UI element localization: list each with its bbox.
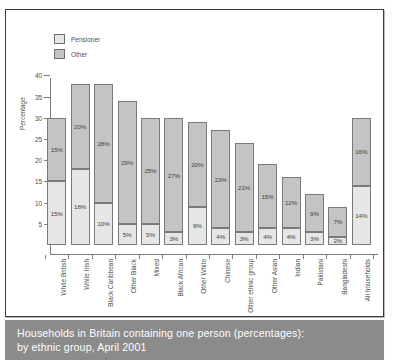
bar-segment-pensioner[interactable]: 2%	[328, 237, 347, 245]
bar-value-label: 9%	[310, 210, 319, 217]
y-axis-title: Percentage	[19, 40, 26, 130]
bar-value-label: 5%	[123, 231, 132, 238]
bar-segment-other[interactable]: 28%	[94, 84, 113, 203]
x-axis-tick-12	[326, 255, 327, 259]
x-axis-category-label: White Irish	[83, 259, 90, 290]
y-axis-tick-label-20: 20	[28, 157, 42, 164]
bar-segment-other[interactable]: 27%	[164, 118, 183, 233]
x-axis-tick-11	[303, 255, 304, 259]
bar-segment-other[interactable]: 29%	[118, 101, 137, 224]
x-axis-category-label: Other Asian	[271, 259, 278, 293]
bar-value-label: 21%	[238, 184, 250, 191]
bar-segment-pensioner[interactable]: 3%	[164, 232, 183, 245]
bar-value-label: 23%	[215, 176, 227, 183]
y-axis-tick-label-35: 35	[28, 93, 42, 100]
bar-value-label: 4%	[216, 233, 225, 240]
bar-value-label: 9%	[193, 222, 202, 229]
x-axis-tick-2	[92, 255, 93, 259]
bar-segment-pensioner[interactable]: 10%	[94, 203, 113, 245]
bar-value-label: 15%	[51, 210, 63, 217]
bar-segment-other[interactable]: 15%	[47, 118, 66, 182]
bar-value-label: 4%	[287, 233, 296, 240]
bar-segment-pensioner[interactable]: 9%	[188, 207, 207, 245]
x-axis-category-label: Pakistani	[317, 259, 324, 285]
bar-segment-other[interactable]: 20%	[71, 84, 90, 169]
bar-segment-other[interactable]: 15%	[258, 164, 277, 228]
bar-segment-other[interactable]: 7%	[328, 207, 347, 237]
bar-value-label: 29%	[121, 159, 133, 166]
bar-segment-pensioner[interactable]: 3%	[305, 232, 324, 245]
bar-segment-pensioner[interactable]: 18%	[71, 169, 90, 245]
bar-value-label: 7%	[333, 218, 342, 225]
x-axis-category-label: Black Caribbean	[107, 259, 114, 307]
x-axis-line	[50, 254, 378, 255]
x-axis-tick-9	[256, 255, 257, 259]
bar-segment-pensioner[interactable]: 4%	[282, 228, 301, 245]
bar-value-label: 16%	[355, 148, 367, 155]
bar-value-label: 2%	[333, 237, 342, 244]
bar-value-label: 3%	[169, 235, 178, 242]
screenshot-root: Pensioner Other Percentage 5101520253035…	[0, 0, 394, 362]
plot-area: Percentage 510152025303540 15%15%18%20%1…	[6, 10, 383, 316]
y-axis-tick-label-5: 5	[28, 220, 42, 227]
x-axis-tick-5	[162, 255, 163, 259]
x-axis-tick-4	[139, 255, 140, 259]
y-axis-tick-40	[44, 75, 50, 76]
bar-value-label: 14%	[355, 212, 367, 219]
y-axis-tick-label-10: 10	[28, 199, 42, 206]
bar-value-label: 20%	[74, 123, 86, 130]
caption-band: Households in Britain containing one per…	[5, 320, 384, 360]
bar-value-label: 20%	[191, 161, 203, 168]
x-axis-tick-3	[115, 255, 116, 259]
bar-value-label: 3%	[240, 235, 249, 242]
x-axis-category-label: Other Black	[130, 259, 137, 293]
x-axis-category-label: Other White	[200, 259, 207, 294]
x-axis-tick-10	[279, 255, 280, 259]
y-axis-tick-label-25: 25	[28, 135, 42, 142]
bar-segment-other[interactable]: 12%	[282, 177, 301, 228]
chart-panel: Pensioner Other Percentage 5101520253035…	[5, 9, 384, 317]
bar-value-label: 12%	[285, 199, 297, 206]
x-axis-tick-7	[209, 255, 210, 259]
x-axis-tick-6	[186, 255, 187, 259]
bar-value-label: 4%	[263, 233, 272, 240]
bar-segment-pensioner[interactable]: 4%	[211, 228, 230, 245]
bar-segment-other[interactable]: 20%	[188, 122, 207, 207]
bar-segment-other[interactable]: 21%	[235, 143, 254, 232]
y-axis-tick-35	[44, 97, 50, 98]
x-axis-tick-14	[373, 255, 374, 259]
x-axis-tick-8	[232, 255, 233, 259]
bar-value-label: 3%	[310, 235, 319, 242]
bar-value-label: 15%	[262, 193, 274, 200]
bar-segment-other[interactable]: 25%	[141, 118, 160, 224]
x-axis-category-label: Black African	[177, 259, 184, 297]
x-axis-category-label: Indian	[294, 259, 301, 277]
y-axis-tick-label-40: 40	[28, 72, 42, 79]
x-axis-category-label: Other ethnic group	[247, 259, 254, 313]
bar-segment-pensioner[interactable]: 15%	[47, 181, 66, 245]
bar-value-label: 15%	[51, 146, 63, 153]
x-axis-category-label: All households	[364, 259, 371, 301]
bar-segment-pensioner[interactable]: 3%	[235, 232, 254, 245]
y-axis-tick-label-15: 15	[28, 178, 42, 185]
bar-segment-other[interactable]: 23%	[211, 130, 230, 228]
bar-segment-pensioner[interactable]: 5%	[118, 224, 137, 245]
bar-value-label: 10%	[98, 220, 110, 227]
x-axis-category-label: White British	[60, 259, 67, 296]
bar-value-label: 28%	[98, 140, 110, 147]
caption-line-1: Households in Britain containing one per…	[17, 326, 374, 340]
bar-segment-pensioner[interactable]: 5%	[141, 224, 160, 245]
bar-segment-other[interactable]: 16%	[352, 118, 371, 186]
bar-segment-pensioner[interactable]: 4%	[258, 228, 277, 245]
bar-value-label: 18%	[74, 203, 86, 210]
x-axis-category-label: Bangladeshi	[341, 259, 348, 295]
y-axis-tick-label-30: 30	[28, 114, 42, 121]
x-axis-tick-13	[350, 255, 351, 259]
bar-segment-other[interactable]: 9%	[305, 194, 324, 232]
x-axis-category-label: Mixed	[153, 259, 160, 276]
x-axis-tick-0	[45, 255, 46, 259]
caption-line-2: by ethnic group, April 2001	[17, 340, 374, 354]
bar-segment-pensioner[interactable]: 14%	[352, 186, 371, 245]
x-axis-tick-1	[68, 255, 69, 259]
bar-value-label: 25%	[144, 167, 156, 174]
